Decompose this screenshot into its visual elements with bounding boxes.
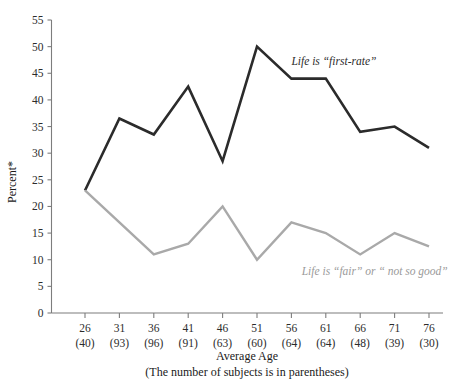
x-tick-label: 26 (79, 322, 91, 334)
y-tick-label: 10 (32, 254, 44, 266)
x-tick-sublabel: (96) (144, 337, 163, 350)
x-tick-label: 66 (354, 322, 366, 334)
x-axis-note: (The number of subjects is in parenthese… (145, 365, 348, 379)
x-tick-label: 31 (114, 322, 126, 334)
x-tick-label: 61 (320, 322, 332, 334)
y-tick-label: 25 (32, 174, 44, 186)
y-tick-label: 45 (32, 67, 44, 79)
series-annotation-label: Life is “fair” or “ not so good” (301, 265, 448, 278)
y-axis-title: Percent* (5, 161, 19, 203)
y-tick-label: 50 (32, 41, 44, 53)
x-tick-sublabel: (30) (419, 337, 438, 350)
x-tick-label: 36 (148, 322, 160, 334)
y-axis-group: 0510152025303540455055 Percent* (5, 14, 52, 319)
x-tick-label: 56 (286, 322, 298, 334)
x-axis-ticks: 26(40)31(93)36(96)41(91)46(63)51(60)56(6… (75, 313, 438, 350)
y-tick-label: 0 (38, 307, 44, 319)
x-tick-sublabel: (64) (282, 337, 301, 350)
x-tick-sublabel: (40) (75, 337, 94, 350)
x-tick-label: 51 (251, 322, 263, 334)
x-axis-group: 26(40)31(93)36(96)41(91)46(63)51(60)56(6… (52, 313, 444, 379)
x-tick-label: 71 (389, 322, 401, 334)
x-tick-sublabel: (64) (316, 337, 335, 350)
y-tick-label: 35 (32, 121, 44, 133)
x-tick-label: 41 (182, 322, 194, 334)
line-chart: 0510152025303540455055 Percent* 26(40)31… (0, 0, 461, 385)
chart-container: 0510152025303540455055 Percent* 26(40)31… (0, 0, 461, 385)
y-tick-label: 55 (32, 14, 44, 26)
y-tick-label: 15 (32, 227, 44, 239)
x-tick-sublabel: (39) (385, 337, 404, 350)
x-tick-sublabel: (48) (351, 337, 370, 350)
y-axis-ticks: 0510152025303540455055 (32, 14, 52, 319)
x-tick-sublabel: (91) (179, 337, 198, 350)
y-tick-label: 5 (38, 280, 44, 292)
y-tick-label: 30 (32, 147, 44, 159)
series-line (85, 47, 429, 191)
series-layer (85, 47, 429, 260)
x-axis-title: Average Age (216, 349, 278, 363)
y-tick-label: 40 (32, 94, 44, 106)
series-line (85, 190, 429, 259)
x-tick-sublabel: (93) (110, 337, 129, 350)
x-tick-label: 46 (217, 322, 229, 334)
x-tick-label: 76 (423, 322, 435, 334)
y-tick-label: 20 (32, 200, 44, 212)
series-annotation-label: Life is “first-rate” (290, 55, 376, 68)
